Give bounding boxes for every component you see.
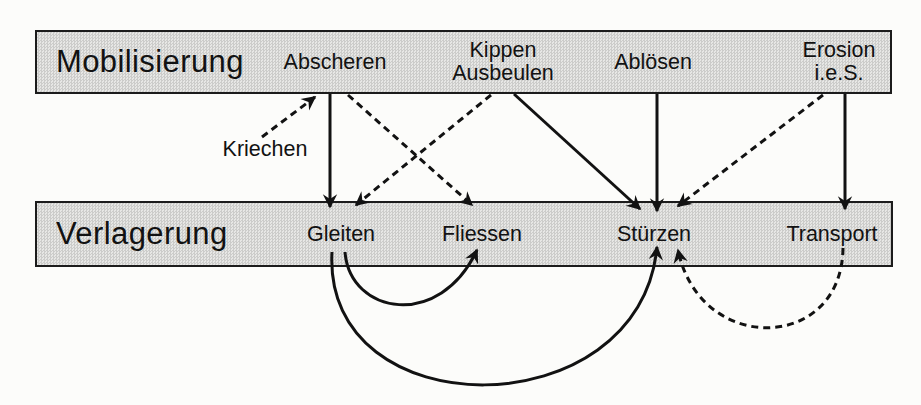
node-abloesen: Ablösen	[614, 51, 692, 74]
node-stuerzen: Stürzen	[617, 223, 691, 246]
edge-kippen-ausbeulen-to-gleiten	[356, 95, 491, 205]
row-title-mobilisierung: Mobilisierung	[56, 44, 244, 80]
diagram-canvas: Mobilisierung Abscheren Kippen Ausbeulen…	[0, 0, 921, 405]
node-erosion: Erosion i.e.S.	[803, 39, 876, 85]
node-abscheren: Abscheren	[284, 51, 387, 74]
node-gleiten: Gleiten	[307, 223, 375, 246]
row-mobilisierung: Mobilisierung Abscheren Kippen Ausbeulen…	[35, 30, 892, 94]
row-title-verlagerung: Verlagerung	[56, 216, 228, 252]
node-transport: Transport	[786, 223, 877, 246]
row-verlagerung: Verlagerung Gleiten Fliessen Stürzen Tra…	[35, 201, 893, 267]
edge-erosion-to-stuerzen	[678, 95, 823, 206]
node-fliessen: Fliessen	[442, 223, 522, 246]
node-kippen-ausbeulen: Kippen Ausbeulen	[452, 39, 554, 85]
node-kriechen: Kriechen	[223, 137, 308, 162]
edge-kippen-ausbeulen-to-stuerzen	[514, 94, 640, 209]
edge-kriechen-to-abscheren	[262, 97, 315, 137]
edge-abscheren-to-fliessen	[348, 95, 472, 205]
edge-gleiten-to-stuerzen	[332, 247, 657, 385]
